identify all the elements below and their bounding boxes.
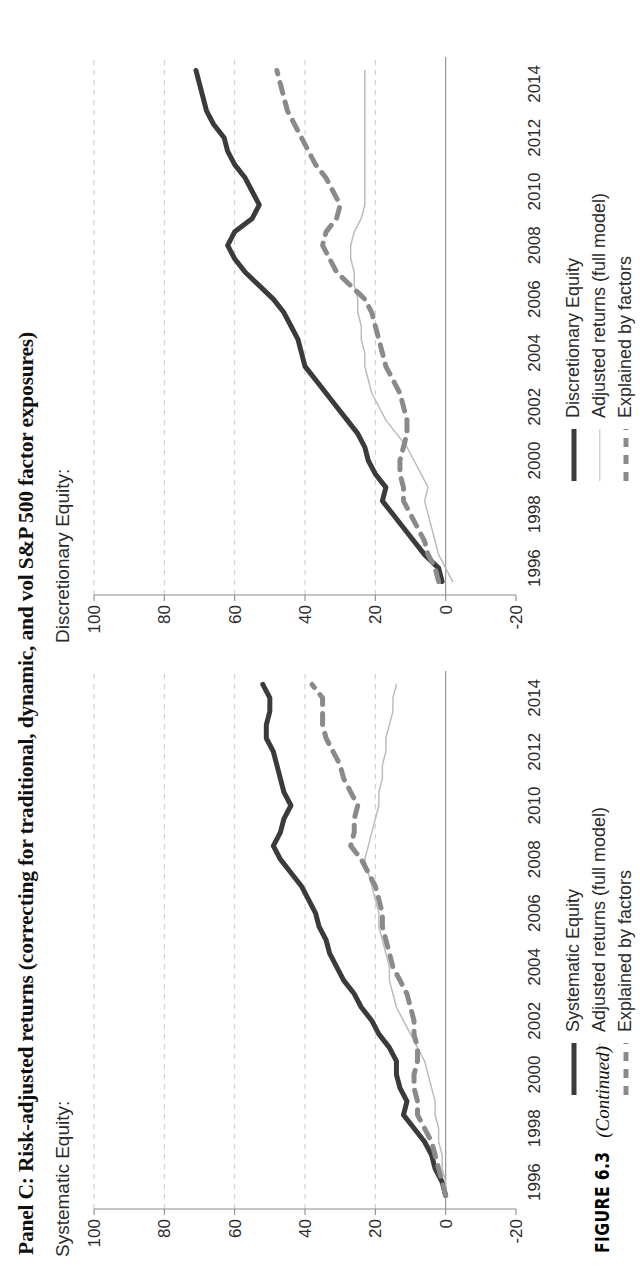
x-axis-tick-label: 1996	[525, 549, 544, 587]
x-axis-tick-label: 1998	[525, 1109, 544, 1147]
series-line	[351, 70, 453, 581]
x-axis-tick-label: 1998	[525, 495, 544, 533]
y-axis-tick-label: 80	[155, 605, 174, 624]
legend-item: Systematic Equity	[564, 807, 583, 1095]
legend-item-label: Explained by factors	[615, 256, 636, 418]
plot-area-systematic: -200204060801001996199820002002200420062…	[86, 663, 556, 1263]
legend-item: Discretionary Equity	[564, 193, 583, 481]
legend-swatch-solid-thick-icon	[567, 1043, 581, 1095]
y-axis-tick-label: 60	[226, 605, 245, 624]
plot-area-discretionary: -200204060801001996199820002002200420062…	[86, 49, 556, 649]
legend-item-label: Adjusted returns (full model)	[589, 807, 610, 1032]
y-axis-tick-label: 20	[366, 1219, 385, 1238]
x-axis-tick-label: 2000	[525, 1056, 544, 1094]
y-axis-tick-label: 40	[296, 605, 315, 624]
figure-continued-note: (Continued)	[592, 1046, 614, 1138]
series-line	[277, 70, 439, 581]
panel-title: Panel C: Risk-adjusted returns (correcti…	[14, 332, 39, 1255]
legend-item-label: Discretionary Equity	[563, 258, 584, 418]
x-axis-tick-label: 2000	[525, 442, 544, 480]
y-axis-tick-label: 0	[437, 1219, 456, 1228]
y-axis-tick-label: 20	[366, 605, 385, 624]
y-axis-tick-label: 40	[296, 1219, 315, 1238]
x-axis-tick-label: 2002	[525, 388, 544, 426]
legend-item-label: Systematic Equity	[563, 889, 584, 1032]
figure-caption: FIGURE 6.3 (Continued)	[590, 1046, 614, 1253]
legend-item: Adjusted returns (full model)	[590, 193, 609, 481]
x-axis-tick-label: 2004	[525, 334, 544, 372]
legend-item: Explained by factors	[616, 193, 635, 481]
chart-subtitle-discretionary: Discretionary Equity:	[52, 469, 74, 643]
legend-swatch-solid-thin-icon	[593, 429, 607, 481]
figure-page: Panel C: Risk-adjusted returns (correcti…	[0, 0, 640, 1277]
x-axis-tick-label: 2014	[525, 65, 544, 103]
legend-swatch-dashed-icon	[619, 1043, 633, 1095]
x-axis-tick-label: 2002	[525, 1002, 544, 1040]
x-axis-tick-label: 2004	[525, 948, 544, 986]
x-axis-tick-label: 1996	[525, 1163, 544, 1201]
x-axis-tick-label: 2006	[525, 280, 544, 318]
x-axis-tick-label: 2014	[525, 679, 544, 717]
figure-number: FIGURE 6.3	[590, 1151, 614, 1253]
y-axis-tick-label: 100	[86, 1219, 104, 1247]
x-axis-tick-label: 2008	[525, 840, 544, 878]
legend-discretionary: Discretionary Equity Adjusted returns (f…	[564, 193, 635, 481]
y-axis-tick-label: -20	[507, 605, 526, 630]
series-line	[312, 684, 446, 1195]
y-axis-tick-label: 80	[155, 1219, 174, 1238]
x-axis-tick-label: 2006	[525, 894, 544, 932]
chart-subtitle-systematic: Systematic Equity:	[52, 1101, 74, 1257]
legend-swatch-solid-thick-icon	[567, 429, 581, 481]
legend-item-label: Explained by factors	[615, 870, 636, 1032]
x-axis-tick-label: 2012	[525, 733, 544, 771]
legend-item: Explained by factors	[616, 807, 635, 1095]
x-axis-tick-label: 2012	[525, 119, 544, 157]
x-axis-tick-label: 2010	[525, 173, 544, 211]
x-axis-tick-label: 2008	[525, 226, 544, 264]
chart-systematic-equity: Systematic Equity: -20020406080100199619…	[52, 663, 592, 1263]
chart-discretionary-equity: Discretionary Equity: -20020406080100199…	[52, 49, 592, 649]
y-axis-tick-label: 0	[437, 605, 456, 614]
legend-item-label: Adjusted returns (full model)	[589, 193, 610, 418]
y-axis-tick-label: 100	[86, 605, 104, 633]
y-axis-tick-label: 60	[226, 1219, 245, 1238]
x-axis-tick-label: 2010	[525, 787, 544, 825]
y-axis-tick-label: -20	[507, 1219, 526, 1244]
legend-swatch-dashed-icon	[619, 429, 633, 481]
